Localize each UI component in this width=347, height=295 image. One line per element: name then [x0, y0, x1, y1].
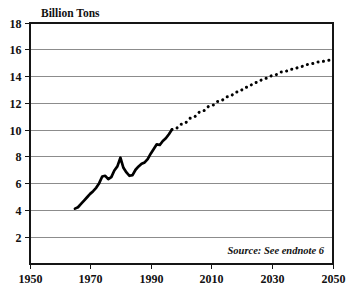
chart-canvas: 24681012141618 195019701990201020302050 … [0, 0, 347, 295]
source-annotation: Source: See endnote 6 [227, 245, 324, 256]
y-tick-label-2: 2 [16, 231, 22, 245]
x-tick-label-2030: 2030 [261, 272, 285, 286]
series-line-historic [75, 130, 172, 209]
plot-frame [30, 23, 333, 264]
y-tick-label-18: 18 [10, 17, 22, 31]
x-tick-label-2010: 2010 [200, 272, 224, 286]
y-tick-label-16: 16 [10, 43, 22, 57]
x-tick-label-1970: 1970 [79, 272, 103, 286]
y-tick-label-8: 8 [16, 150, 22, 164]
x-tick-label-1950: 1950 [19, 272, 43, 286]
y-tick-label-6: 6 [16, 177, 22, 191]
x-tick-label-1990: 1990 [140, 272, 164, 286]
y-tick-label-4: 4 [16, 204, 22, 218]
chart-title: Billion Tons [41, 7, 100, 19]
y-axis-tick-labels: 24681012141618 [10, 17, 22, 245]
x-tick-label-2050: 2050 [322, 272, 346, 286]
y-tick-label-14: 14 [10, 70, 22, 84]
x-axis-tick-labels: 195019701990201020302050 [19, 272, 346, 286]
y-tick-label-10: 10 [10, 124, 22, 138]
y-tick-label-12: 12 [10, 97, 22, 111]
chart-container: 24681012141618 195019701990201020302050 … [0, 0, 347, 295]
series-line-projected [172, 59, 333, 129]
